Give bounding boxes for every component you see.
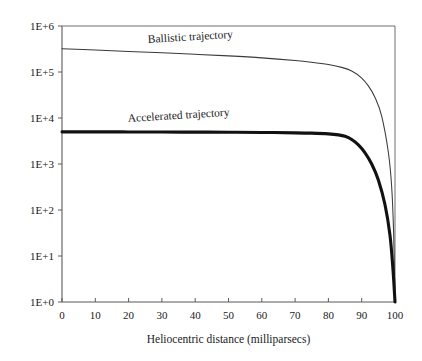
x-tick-label: 70 xyxy=(290,309,302,321)
y-tick-label: 1E+4 xyxy=(30,112,54,124)
chart-page: 1E+01E+11E+21E+31E+41E+51E+6 01020304050… xyxy=(0,0,422,361)
x-tick-label: 90 xyxy=(356,309,368,321)
x-axis-title: Heliocentric distance (milliparsecs) xyxy=(147,333,311,346)
y-tick-label: 1E+2 xyxy=(30,204,54,216)
x-tick-label: 20 xyxy=(123,309,135,321)
x-tick-label: 100 xyxy=(387,309,404,321)
chart-background xyxy=(0,0,422,361)
y-tick-label: 1E+6 xyxy=(30,20,54,32)
x-tick-label: 10 xyxy=(90,309,102,321)
x-tick-label: 0 xyxy=(59,309,65,321)
y-tick-label: 1E+0 xyxy=(30,296,54,308)
log-line-chart: 1E+01E+11E+21E+31E+41E+51E+6 01020304050… xyxy=(0,0,422,361)
y-tick-label: 1E+3 xyxy=(30,158,54,170)
x-tick-label: 60 xyxy=(256,309,268,321)
x-tick-label: 40 xyxy=(190,309,202,321)
x-tick-label: 80 xyxy=(323,309,335,321)
y-tick-label: 1E+5 xyxy=(30,66,54,78)
x-tick-label: 50 xyxy=(223,309,235,321)
y-tick-label: 1E+1 xyxy=(30,250,54,262)
x-tick-label: 30 xyxy=(156,309,168,321)
